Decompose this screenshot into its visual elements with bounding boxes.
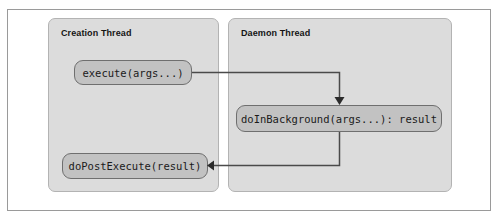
node-do-in-background: doInBackground(args...): result xyxy=(236,105,442,132)
diagram-canvas: Creation Thread Daemon Thread execute(ar… xyxy=(0,0,500,224)
panel-creation-thread-title: Creation Thread xyxy=(61,28,132,38)
panel-daemon-thread-title: Daemon Thread xyxy=(241,28,310,38)
node-do-post-execute: doPostExecute(result) xyxy=(62,153,208,179)
node-execute: execute(args...) xyxy=(74,60,192,85)
